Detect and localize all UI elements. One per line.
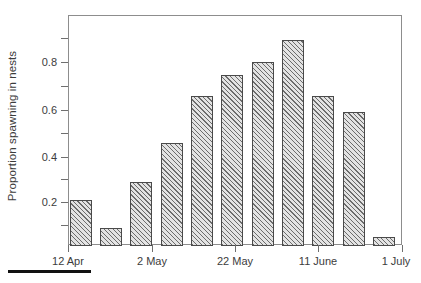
y-major-tick-0.6 — [61, 110, 68, 111]
bar-6 — [221, 75, 243, 246]
bar-11 — [373, 237, 395, 246]
x-tick-1-july — [402, 245, 403, 252]
y-minor-tick-0.7 — [61, 86, 68, 87]
bar-10 — [343, 112, 365, 246]
y-axis-title: Proportion spawning in nests — [6, 21, 22, 231]
bar-5 — [191, 96, 213, 246]
y-minor-tick-0.5 — [61, 133, 68, 134]
y-tick-label-0.4: 0.4 — [24, 152, 57, 163]
x-tick-label-11-june: 11 June — [278, 255, 358, 267]
bottom-rule — [8, 270, 91, 273]
y-major-tick-0.4 — [61, 157, 68, 158]
x-tick-label-1-july: 1 July — [356, 255, 421, 267]
y-tick-label-0.8: 0.8 — [24, 57, 57, 68]
bar-7 — [252, 62, 274, 246]
x-tick-11-june — [318, 245, 319, 252]
x-tick-label-22-may: 22 May — [195, 255, 275, 267]
x-tick-22-may — [235, 245, 236, 252]
y-major-tick-0.2 — [61, 202, 68, 203]
x-tick-12-apr — [68, 245, 69, 252]
x-tick-label-2-may: 2 May — [112, 255, 192, 267]
bar-4 — [161, 143, 183, 246]
x-tick-2-may — [152, 245, 153, 252]
bar-9 — [312, 96, 334, 246]
bar-3 — [130, 182, 152, 246]
y-minor-tick-0.9 — [61, 38, 68, 39]
y-minor-tick-0.3 — [61, 179, 68, 180]
y-major-tick-0.8 — [61, 62, 68, 63]
bar-2 — [100, 228, 122, 246]
x-tick-label-12-apr: 12 Apr — [28, 255, 108, 267]
y-tick-label-0.2: 0.2 — [24, 197, 57, 208]
bar-8 — [282, 40, 304, 246]
y-minor-tick-0.1 — [61, 225, 68, 226]
y-tick-label-0.6: 0.6 — [24, 105, 57, 116]
bar-1 — [70, 200, 92, 246]
figure-container: Proportion spawning in nests 0.8 0.6 0.4… — [0, 0, 421, 283]
